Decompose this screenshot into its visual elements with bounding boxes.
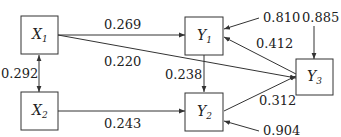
label-y2-y3: 0.312 xyxy=(259,93,296,108)
node-x2: X2 xyxy=(21,92,58,130)
label-x2-y2: 0.243 xyxy=(104,116,141,131)
label-err-y3: 0.885 xyxy=(302,10,339,25)
label-err-y2: 0.904 xyxy=(263,123,300,137)
label-x1-y1: 0.269 xyxy=(104,17,141,32)
edge-err-y1 xyxy=(224,18,259,29)
label-err-y1: 0.810 xyxy=(263,10,300,25)
label-y3-y1: 0.412 xyxy=(256,36,293,51)
label-y1-y2: 0.238 xyxy=(165,67,202,82)
label-x1-x2: 0.292 xyxy=(1,66,38,81)
node-y2: Y2 xyxy=(185,93,223,131)
node-y1: Y1 xyxy=(185,17,223,55)
node-x1: X1 xyxy=(21,16,58,54)
label-x1-y3: 0.220 xyxy=(104,54,141,69)
node-y3: Y3 xyxy=(296,59,333,95)
edge-err-y2 xyxy=(224,121,259,131)
path-diagram: X1 X2 Y1 Y2 Y3 0.269 0.220 0.292 0.243 0… xyxy=(0,0,341,137)
